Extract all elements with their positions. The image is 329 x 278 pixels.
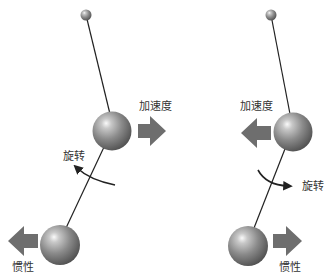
right-acceleration-label: 加速度 — [240, 101, 273, 112]
bottom-ball — [228, 226, 268, 266]
inertia-arrow-icon — [8, 226, 38, 256]
bottom-ball — [40, 225, 80, 265]
left-pendulum — [8, 10, 166, 266]
middle-ball — [274, 113, 313, 152]
left-inertia-label: 惯性 — [12, 262, 34, 273]
acceleration-arrow-icon — [241, 118, 271, 148]
left-acceleration-label: 加速度 — [139, 101, 172, 112]
pivot-ball — [266, 10, 277, 21]
acceleration-arrow-icon — [138, 116, 166, 146]
right-rotation-label: 旋转 — [302, 181, 324, 192]
left-rotation-label: 旋转 — [63, 151, 85, 162]
pivot-ball — [81, 10, 92, 21]
upper-rod — [86, 15, 110, 114]
middle-ball — [93, 112, 132, 151]
right-inertia-label: 惯性 — [279, 262, 301, 273]
rotation-arrow-icon — [77, 168, 115, 185]
diagram-canvas — [0, 0, 329, 278]
inertia-arrow-icon — [273, 226, 302, 256]
upper-rod — [271, 15, 290, 114]
right-pendulum — [228, 10, 313, 267]
